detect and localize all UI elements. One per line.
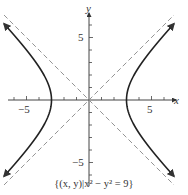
x-axis-label: x xyxy=(173,94,179,106)
set-caption: {(x, y)|x² − y² = 9} xyxy=(0,178,188,189)
y-tick-label-5: 5 xyxy=(78,31,84,43)
x-tick-label-5: 5 xyxy=(147,103,153,115)
y-tick-label-neg5: −5 xyxy=(72,156,84,168)
x-tick-label-neg5: −5 xyxy=(18,103,30,115)
y-axis-label: y xyxy=(85,2,91,14)
plot-area xyxy=(4,13,176,186)
hyperbola-plot: x y −5 5 5 −5 xyxy=(0,0,188,195)
